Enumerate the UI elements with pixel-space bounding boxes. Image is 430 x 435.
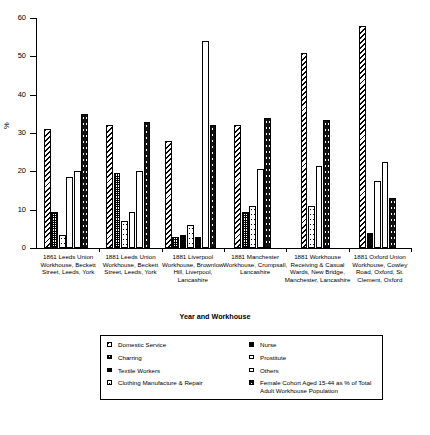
bar xyxy=(367,233,374,248)
y-tick-label: 40 xyxy=(0,91,26,99)
x-axis-label: 1881 Leeds Union Workhouse, Beckett Stre… xyxy=(96,253,164,276)
legend-item: Textile Workers xyxy=(107,367,247,375)
y-axis-title: % xyxy=(2,122,11,129)
legend-column-right: NurseProstituteOthersFemale Cohort Aged … xyxy=(249,341,379,400)
bar xyxy=(136,171,143,248)
legend-item: Nurse xyxy=(249,341,379,349)
bar xyxy=(144,122,151,249)
bar xyxy=(195,237,202,249)
bar xyxy=(44,129,51,248)
legend-item-label: Domestic Service xyxy=(118,341,166,348)
legend-item: Clothing Manufacture & Repair xyxy=(107,379,247,387)
bar xyxy=(81,114,88,248)
x-tick xyxy=(349,248,350,252)
bar xyxy=(249,206,256,248)
legend-item: Prostitute xyxy=(249,354,379,362)
y-tick xyxy=(30,171,36,172)
legend-swatch-icon xyxy=(249,342,254,347)
bar xyxy=(323,120,330,248)
legend-item: Female Cohort Aged 15-44 as % of Total A… xyxy=(249,379,379,394)
bar xyxy=(129,212,136,248)
legend-swatch-icon xyxy=(107,368,112,373)
x-tick xyxy=(286,248,287,252)
y-tick xyxy=(30,56,36,57)
y-tick-label: 10 xyxy=(0,206,26,214)
bar xyxy=(114,173,121,248)
bar xyxy=(165,141,172,248)
bar xyxy=(359,26,366,248)
y-tick xyxy=(30,95,36,96)
bar xyxy=(389,198,396,248)
bar xyxy=(66,177,73,248)
legend-item-label: Charring xyxy=(118,354,142,361)
legend-item: Others xyxy=(249,367,379,375)
y-tick-label: 20 xyxy=(0,167,26,175)
bar xyxy=(74,171,81,248)
legend-swatch-icon xyxy=(249,355,254,360)
x-tick xyxy=(99,248,100,252)
y-tick-label: 30 xyxy=(0,129,26,137)
bar xyxy=(202,41,209,248)
y-tick-label: 0 xyxy=(0,244,26,252)
bar xyxy=(59,235,66,248)
y-tick xyxy=(30,133,36,134)
bar xyxy=(121,221,128,248)
x-tick xyxy=(411,248,412,252)
bar xyxy=(242,212,249,248)
bar xyxy=(180,235,187,248)
legend: Domestic ServiceCharringTextile WorkersC… xyxy=(100,335,383,400)
bar xyxy=(187,225,194,248)
legend-item-label: Clothing Manufacture & Repair xyxy=(118,379,203,386)
y-tick xyxy=(30,18,36,19)
x-tick xyxy=(224,248,225,252)
x-axis-title: Year and Workhouse xyxy=(0,312,430,321)
bar xyxy=(51,212,58,248)
legend-swatch-icon xyxy=(249,380,254,385)
bar xyxy=(234,125,241,248)
legend-swatch-icon xyxy=(107,380,112,385)
bar xyxy=(382,162,389,248)
legend-column-left: Domestic ServiceCharringTextile WorkersC… xyxy=(107,341,247,392)
bar xyxy=(172,237,179,249)
y-axis-line xyxy=(36,18,37,249)
bar xyxy=(264,118,271,248)
bar xyxy=(316,166,323,248)
legend-item-label: Textile Workers xyxy=(118,367,160,374)
legend-swatch-icon xyxy=(107,342,112,347)
legend-item-label: Nurse xyxy=(260,341,277,348)
y-tick xyxy=(30,210,36,211)
legend-item: Charring xyxy=(107,354,247,362)
legend-swatch-icon xyxy=(107,355,112,360)
x-axis-label: 1881 Oxford Union Workhouse, Cowley Road… xyxy=(346,253,414,283)
y-tick-label: 60 xyxy=(0,14,26,22)
legend-item-label: Female Cohort Aged 15-44 as % of Total A… xyxy=(260,379,371,394)
x-axis-label: 1881 Liverpool Workhouse, Brownlow Hill,… xyxy=(159,253,227,283)
bar xyxy=(257,169,264,248)
bar xyxy=(374,181,381,248)
y-tick-label: 50 xyxy=(0,52,26,60)
x-axis-label: 1861 Leeds Union Workhouse, Beckett Stre… xyxy=(34,253,102,276)
legend-swatch-icon xyxy=(249,368,254,373)
bar xyxy=(308,206,315,248)
bar xyxy=(301,53,308,249)
x-axis-label: 1881 Workhouse Receiving & Casual Wards,… xyxy=(283,253,351,283)
x-tick xyxy=(162,248,163,252)
bar xyxy=(106,125,113,248)
legend-item-label: Prostitute xyxy=(260,354,286,361)
y-tick xyxy=(30,248,36,249)
legend-item: Domestic Service xyxy=(107,341,247,349)
bar xyxy=(210,125,217,248)
x-axis-label: 1881 Manchester Workhouse, Crumpsall, La… xyxy=(221,253,289,276)
chart-root: % 0102030405060 1861 Leeds Union Workhou… xyxy=(0,0,430,435)
legend-item-label: Others xyxy=(260,367,279,374)
